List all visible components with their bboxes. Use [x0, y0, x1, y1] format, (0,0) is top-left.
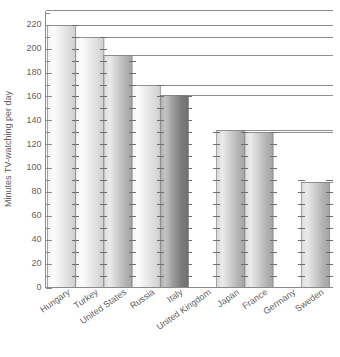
y-tick-label: 220: [26, 19, 41, 29]
y-tick-label: 20: [31, 258, 41, 268]
y-axis-title-text: Minutes TV-watching per day: [3, 91, 13, 207]
y-tick-label: 140: [26, 115, 41, 125]
bar: [245, 133, 273, 288]
x-tick-label: Italy: [165, 287, 185, 305]
x-tick-label: Russia: [128, 287, 156, 311]
x-tick-labels: HungaryTurkeyUnited StatesRussiaItalyUni…: [38, 287, 325, 332]
y-tick-label: 0: [36, 282, 41, 292]
x-tick-label: Germany: [261, 287, 297, 317]
y-tick-label: 180: [26, 67, 41, 77]
y-axis-title: Minutes TV-watching per day: [3, 91, 13, 207]
bar: [301, 183, 329, 288]
y-tick-label: 160: [26, 91, 41, 101]
y-tick-label: 100: [26, 162, 41, 172]
y-tick-label: 200: [26, 43, 41, 53]
bar: [76, 38, 104, 288]
y-tick-label: 60: [31, 210, 41, 220]
y-tick-labels: 020406080100120140160180200220: [26, 19, 41, 292]
x-tick-label: Sweden: [293, 287, 325, 314]
bar: [217, 131, 245, 288]
bar: [48, 26, 76, 288]
bar: [132, 86, 160, 288]
y-tick-label: 120: [26, 139, 41, 149]
bar-chart: 020406080100120140160180200220 HungaryTu…: [0, 0, 340, 357]
bar: [104, 56, 132, 288]
y-tick-label: 40: [31, 234, 41, 244]
x-tick-label: Hungary: [38, 287, 72, 315]
chart-canvas: 020406080100120140160180200220 HungaryTu…: [0, 0, 340, 357]
y-tick-label: 80: [31, 186, 41, 196]
x-tick-label: Japan: [215, 287, 241, 309]
x-tick-label: United Kingdom: [155, 287, 213, 332]
bar: [160, 96, 188, 288]
